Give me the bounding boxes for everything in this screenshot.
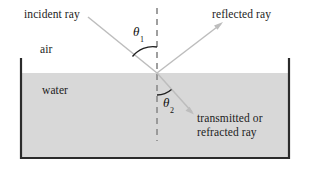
water-medium-label: water: [42, 84, 68, 98]
theta-1-symbol: θ: [133, 24, 139, 39]
theta-2-label: θ2: [163, 95, 173, 113]
theta-1-subscript: 1: [140, 35, 144, 44]
theta-1-label: θ1: [133, 24, 143, 42]
transmitted-ray-label-line2: refracted ray: [197, 126, 263, 140]
refraction-diagram: incident ray air water reflected ray tra…: [0, 0, 310, 177]
transmitted-ray-label: transmitted or refracted ray: [197, 112, 263, 139]
transmitted-ray-label-line1: transmitted or: [197, 112, 263, 126]
air-region: [20, 55, 290, 73]
air-medium-label: air: [40, 43, 52, 57]
reflected-ray-label: reflected ray: [212, 8, 271, 22]
incident-ray-label: incident ray: [24, 8, 80, 22]
theta-2-symbol: θ: [163, 95, 169, 110]
theta-2-subscript: 2: [170, 106, 174, 115]
